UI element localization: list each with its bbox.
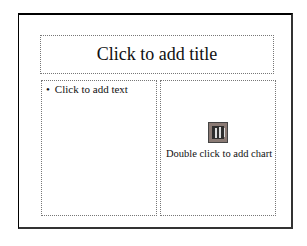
- text-placeholder[interactable]: • Click to add text: [41, 80, 157, 216]
- chart-placeholder[interactable]: Double click to add chart: [160, 80, 276, 216]
- title-placeholder[interactable]: Click to add title: [40, 35, 274, 74]
- chart-placeholder-label: Double click to add chart: [161, 148, 277, 159]
- slide-layout: Click to add title • Click to add text D…: [18, 13, 293, 229]
- chart-icon[interactable]: [208, 122, 228, 143]
- bullet-icon: •: [46, 83, 50, 95]
- text-placeholder-label: Click to add text: [55, 83, 128, 95]
- title-placeholder-text: Click to add title: [97, 44, 217, 65]
